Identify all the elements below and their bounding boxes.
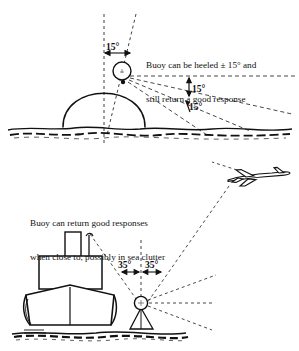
angle-label-left-35: 35° [118, 259, 131, 270]
top-waterline [8, 127, 292, 139]
bottom-caption-line-1: Buoy can return good responses [30, 218, 165, 229]
ship-hull [24, 285, 117, 325]
beam-angle-label-lower: 15° [189, 101, 202, 112]
top-buoy [113, 62, 131, 80]
angle-label-right-35: 35° [145, 259, 158, 270]
heel-angle-label: 15° [106, 41, 119, 52]
bottom-waterline [12, 330, 188, 341]
bottom-buoy [134, 296, 147, 309]
top-buoy-contact-point [121, 80, 125, 84]
bottom-buoy-base [130, 308, 153, 329]
top-caption-line-1: Buoy can be heeled ± 15° and [146, 60, 256, 71]
aircraft-icon [228, 167, 290, 186]
beam-angle-label-upper: 15° [192, 83, 205, 94]
bottom-panel-caption: Buoy can return good responses when clos… [30, 196, 165, 286]
buoy-radar-figure: Buoy can be heeled ± 15° and still retur… [0, 0, 299, 351]
